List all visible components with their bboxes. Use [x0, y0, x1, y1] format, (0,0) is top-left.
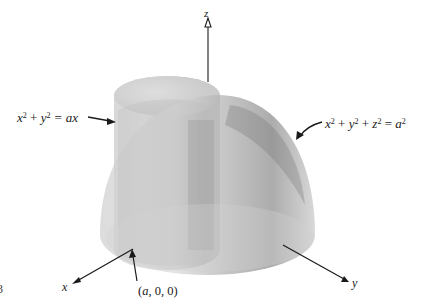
sphere-equation-label: x2 + y2 + z2 = a2 — [325, 117, 406, 130]
z-axis-arrowhead-icon — [205, 18, 211, 27]
cylinder-equation-label: x2 + y2 = ax — [17, 111, 78, 124]
y-axis — [283, 245, 349, 282]
point-label: (a, 0, 0) — [138, 285, 178, 298]
cylinder-pointer-arrow — [88, 117, 116, 125]
x-axis-arrowhead-icon — [72, 277, 81, 284]
figure-number-fragment: 3 — [0, 283, 3, 295]
x-axis — [72, 249, 133, 284]
figure-canvas — [0, 0, 431, 304]
sphere-pointer-arrow — [296, 122, 322, 140]
x-axis-label: x — [62, 281, 67, 293]
z-axis — [205, 18, 211, 82]
y-axis-label: y — [352, 277, 357, 289]
z-axis-label: z — [204, 8, 208, 19]
y-axis-arrowhead-icon — [341, 276, 349, 282]
hemisphere-surface — [100, 95, 315, 275]
